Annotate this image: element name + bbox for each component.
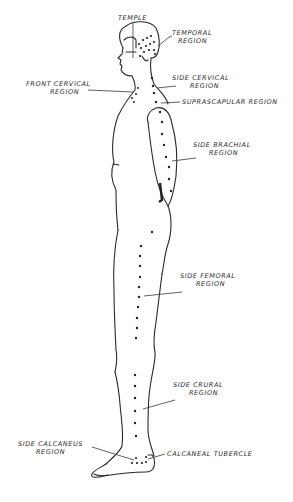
label-temporal-region: Temporal Region [172, 29, 212, 45]
label-side-brachial-line1: Side Brachial [193, 141, 251, 149]
label-front-cervical-line1: Front Cervical [26, 80, 91, 88]
body-figure [0, 0, 293, 502]
label-temporal-line1: Temporal [172, 29, 212, 37]
label-suprascapular-region: Suprascapular Region [182, 98, 278, 106]
label-calcaneal-tubercle: Calcaneal Tubercle [167, 450, 253, 458]
label-side-crural-line2: Region [173, 389, 223, 397]
label-side-calcaneus-line2: Region [18, 448, 83, 456]
label-side-crural-region: Side Crural Region [173, 381, 223, 397]
label-side-femoral-region: Side Femoral Region [180, 272, 236, 288]
head-outline [118, 22, 159, 76]
label-side-femoral-line1: Side Femoral [180, 272, 236, 280]
label-temple-text: Temple [118, 14, 147, 22]
label-temporal-line2: Region [172, 37, 212, 45]
label-side-calcaneus-line1: Side Calcaneus [18, 440, 83, 448]
label-calcaneal-tubercle-text: Calcaneal Tubercle [167, 450, 253, 458]
label-temple: Temple [118, 14, 147, 22]
label-side-brachial-region: Side Brachial Region [193, 141, 251, 157]
label-side-cervical-line1: Side Cervical [172, 74, 229, 82]
label-suprascapular-text: Suprascapular Region [182, 98, 278, 106]
label-front-cervical-region: Front Cervical Region [26, 80, 91, 96]
label-side-crural-line1: Side Crural [173, 381, 223, 389]
label-side-calcaneus-region: Side Calcaneus Region [18, 440, 83, 456]
torso-outline [92, 58, 177, 477]
label-side-cervical-line2: Region [172, 82, 229, 90]
label-front-cervical-line2: Region [26, 88, 91, 96]
label-side-cervical-region: Side Cervical Region [172, 74, 229, 90]
label-side-femoral-line2: Region [180, 280, 236, 288]
label-side-brachial-line2: Region [193, 149, 251, 157]
